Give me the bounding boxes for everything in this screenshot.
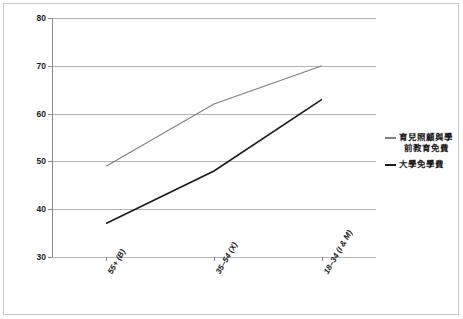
series-line-university [106, 99, 322, 223]
legend-item-childcare[interactable]: 育兒照顧與學 前教育免費 [385, 132, 463, 154]
y-axis-label: 30 [37, 252, 46, 262]
x-tick-mark [106, 257, 107, 261]
y-axis-label: 50 [37, 156, 46, 166]
x-tick-mark [214, 257, 215, 261]
chart-container: 304050607080 55+ (B)35–54 (X)18–34 (I & … [3, 3, 459, 315]
y-axis-label: 80 [37, 13, 46, 23]
legend-swatch-childcare [385, 137, 396, 139]
series-layer [52, 18, 376, 257]
y-axis-label: 40 [37, 204, 46, 214]
series-line-childcare [106, 66, 322, 166]
plot-area: 304050607080 55+ (B)35–54 (X)18–34 (I & … [52, 18, 376, 257]
y-axis-label: 70 [37, 61, 46, 71]
y-tick-mark [48, 257, 52, 258]
legend-swatch-university [385, 164, 396, 166]
x-tick-mark [322, 257, 323, 261]
chart-legend: 育兒照顧與學 前教育免費 大學免學費 [385, 132, 463, 175]
legend-label-university: 大學免學費 [399, 159, 444, 170]
legend-label-childcare: 育兒照顧與學 前教育免費 [399, 132, 453, 154]
legend-item-university[interactable]: 大學免學費 [385, 159, 463, 170]
y-axis-label: 60 [37, 109, 46, 119]
